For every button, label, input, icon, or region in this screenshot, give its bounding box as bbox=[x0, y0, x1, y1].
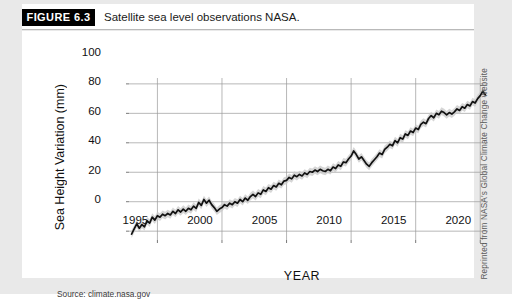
y-tick-label: 20 bbox=[71, 164, 101, 176]
caption-divider bbox=[22, 29, 474, 30]
y-axis-title-text: Sea Height Variation (mm) bbox=[53, 84, 67, 230]
y-tick-label: 80 bbox=[71, 75, 101, 87]
y-axis-title: Sea Height Variation (mm) bbox=[50, 73, 70, 241]
chart-card: Sea Height Variation (mm) 020406080100 1… bbox=[22, 31, 474, 278]
x-tick-label: 2005 bbox=[242, 214, 288, 226]
y-tick-label: 0 bbox=[71, 193, 101, 205]
figure-number-badge: FIGURE 6.3 bbox=[22, 9, 95, 26]
figure-credit-text: Reprinted from NASA's Global Climate Cha… bbox=[480, 68, 489, 280]
x-tick-label: 2020 bbox=[435, 214, 481, 226]
y-tick-label: 40 bbox=[71, 134, 101, 146]
source-note: Source: climate.nasa.gov bbox=[57, 289, 150, 299]
x-tick-label: 2000 bbox=[177, 214, 223, 226]
figure-caption-row: FIGURE 6.3 Satellite sea level observati… bbox=[22, 4, 474, 30]
y-tick-label: 60 bbox=[71, 105, 101, 117]
x-axis-title: YEAR bbox=[112, 269, 492, 283]
y-tick-label: 100 bbox=[71, 46, 101, 58]
figure-caption-text: Satellite sea level observations NASA. bbox=[104, 11, 300, 23]
x-tick-label: 2010 bbox=[306, 214, 352, 226]
x-tick-label: 2015 bbox=[371, 214, 417, 226]
figure-credit: Reprinted from NASA's Global Climate Cha… bbox=[476, 40, 492, 280]
x-tick-label: 1995 bbox=[112, 214, 158, 226]
